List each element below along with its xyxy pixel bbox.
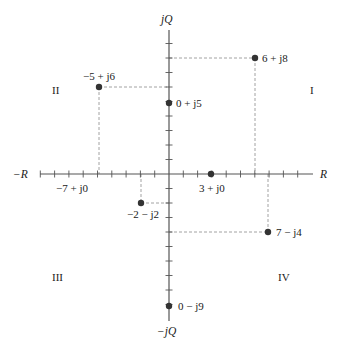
quadrant-label-2: II (52, 84, 60, 96)
points (96, 55, 271, 309)
complex-plane-diagram: −R R jQ −jQ I II III IV 6 + j8 −5 + j6 0… (0, 0, 340, 346)
point-dot-3-j0 (208, 171, 214, 177)
quadrant-label-1: I (310, 84, 314, 96)
point-dot-6-j8 (252, 55, 258, 61)
point-label-m5-j6: −5 + j6 (83, 70, 115, 82)
axis-label-positive-real: R (319, 168, 327, 180)
axis-label-positive-imag: jQ (159, 13, 173, 26)
axes (40, 30, 313, 321)
point-label-0-mj9: 0 − j9 (178, 300, 204, 312)
quadrant-label-4: IV (278, 271, 290, 283)
point-label-m7-j0: −7 + j0 (56, 182, 88, 194)
guide-lines (99, 58, 268, 232)
point-label-6-j8: 6 + j8 (262, 52, 288, 64)
point-dot-0-j5 (166, 100, 172, 106)
axis-label-negative-imag: −jQ (157, 325, 177, 338)
point-label-7-mj4: 7 − j4 (276, 226, 302, 238)
point-label-0-j5: 0 + j5 (176, 97, 202, 109)
point-dot-7-mj4 (265, 229, 271, 235)
quadrant-label-3: III (52, 271, 63, 283)
point-label-m2-mj2: −2 − j2 (127, 208, 159, 220)
point-dot-0-mj9 (166, 303, 172, 309)
point-label-3-j0: 3 + j0 (199, 182, 225, 194)
point-dot-m5-j6 (96, 84, 102, 90)
point-dot-m2-mj2 (138, 200, 144, 206)
axis-label-negative-real: −R (13, 168, 28, 180)
